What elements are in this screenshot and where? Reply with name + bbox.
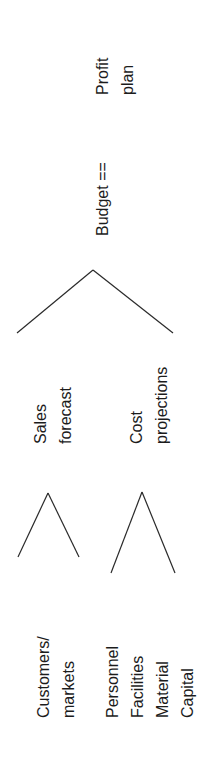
budget-tree-diagram: Budget == Profit plan Sales forecast Cos… — [0, 0, 209, 765]
capital-label: Capital — [180, 668, 196, 718]
cost-label: Cost — [129, 411, 145, 444]
connector-sales-right — [48, 493, 79, 557]
connector-budget-sales — [17, 270, 93, 333]
customers-label: Customers/ — [36, 636, 52, 718]
material-label: Material — [155, 661, 171, 718]
budget-label: Budget == — [95, 162, 111, 236]
forecast-label: forecast — [58, 387, 74, 444]
markets-label: markets — [61, 661, 77, 718]
profit-label: Profit — [95, 58, 111, 95]
connector-budget-cost — [93, 270, 173, 333]
projections-label: projections — [154, 367, 170, 444]
connector-cost-right — [142, 492, 175, 573]
connector-sales-left — [18, 493, 48, 557]
personnel-label: Personnel — [105, 646, 121, 718]
connector-cost-left — [111, 492, 142, 573]
facilities-label: Facilities — [130, 656, 146, 718]
plan-label: plan — [120, 65, 136, 95]
sales-label: Sales — [33, 404, 49, 444]
